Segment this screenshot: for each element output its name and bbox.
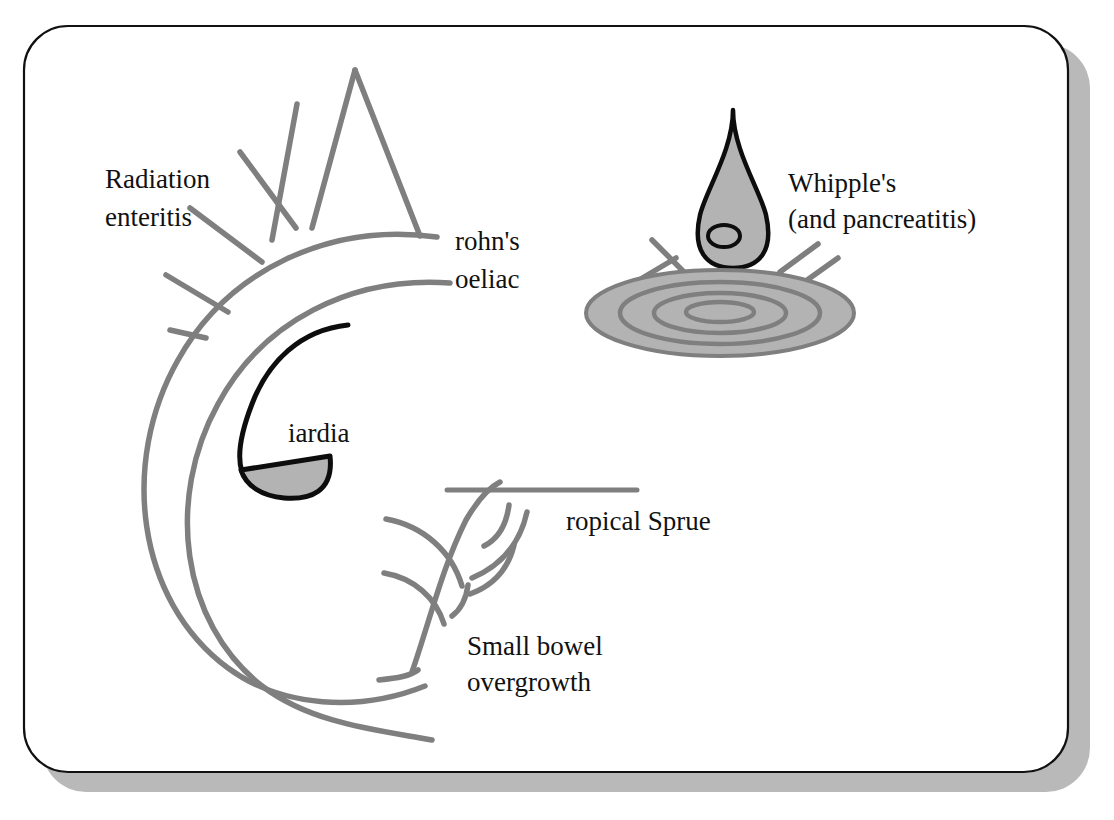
label-small-bowel-line1: Small bowel xyxy=(467,631,603,661)
ripple-puddle-icon xyxy=(586,270,854,356)
label-small-bowel-line2: overgrowth xyxy=(467,667,591,697)
label-whipples-line1: Whipple's xyxy=(788,168,896,198)
label-crohns-line2: oeliac xyxy=(455,264,519,294)
label-tropical-sprue: ropical Sprue xyxy=(566,506,711,536)
label-radiation-line2: enteritis xyxy=(105,202,192,232)
droplet-vacuole-icon xyxy=(708,225,740,247)
label-crohns-line1: rohn's xyxy=(455,226,520,256)
label-radiation-line1: Radiation xyxy=(105,164,210,194)
label-giardia: iardia xyxy=(288,418,349,448)
malabsorption-diagram: Radiation enteritis rohn's oeliac Whippl… xyxy=(0,0,1114,820)
figure-canvas: Radiation enteritis rohn's oeliac Whippl… xyxy=(0,0,1114,820)
label-whipples-line2: (and pancreatitis) xyxy=(788,204,976,234)
